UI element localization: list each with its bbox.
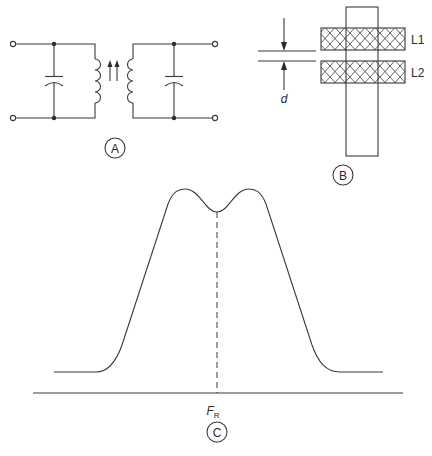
wire-left-top bbox=[16, 44, 95, 59]
spacing-dimension-icon bbox=[258, 18, 316, 90]
coil-l1-winding bbox=[321, 28, 405, 50]
spacing-d-label: d bbox=[281, 92, 288, 106]
terminal-top-left bbox=[10, 41, 15, 46]
panel-b-coils: L1 L2 d B bbox=[258, 7, 425, 185]
coil-l1-label: L1 bbox=[411, 33, 425, 47]
figure-canvas: A L1 L2 d B FR C bbox=[0, 0, 432, 456]
capacitor-left-icon bbox=[45, 44, 63, 118]
panel-label-b: B bbox=[339, 169, 347, 183]
inductor-right-icon bbox=[128, 59, 134, 103]
panel-a-circuit: A bbox=[10, 41, 217, 158]
panel-label-a: A bbox=[111, 142, 119, 156]
panel-c-response: FR C bbox=[33, 189, 403, 442]
inductor-left-icon bbox=[95, 59, 101, 103]
terminal-top-right bbox=[212, 41, 217, 46]
coil-l2-winding bbox=[321, 61, 405, 83]
capacitor-right-icon bbox=[165, 44, 183, 118]
wire-right-top bbox=[133, 44, 212, 59]
center-frequency-label: FR bbox=[206, 404, 219, 420]
tuning-slug-arrows-icon bbox=[108, 60, 120, 81]
wire-right-bottom bbox=[133, 103, 212, 118]
wire-left-bottom bbox=[16, 103, 95, 118]
coil-l2-label: L2 bbox=[411, 66, 425, 80]
panel-label-c: C bbox=[213, 426, 222, 440]
terminal-bottom-right bbox=[212, 115, 217, 120]
terminal-bottom-left bbox=[10, 115, 15, 120]
response-curve bbox=[54, 189, 383, 372]
